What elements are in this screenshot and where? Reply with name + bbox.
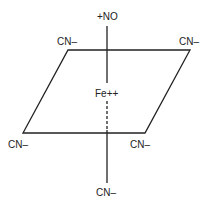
label-cyanide-top-right: CN– bbox=[179, 37, 199, 47]
label-cyanide-bottom-right: CN– bbox=[130, 140, 150, 150]
label-cyanide-bottom-left: CN– bbox=[8, 140, 28, 150]
label-iron-center: Fe++ bbox=[95, 89, 118, 99]
label-cyanide-bottom-axial: CN– bbox=[96, 188, 116, 198]
label-cyanide-top-left: CN– bbox=[57, 37, 77, 47]
diagram-canvas: +NO CN– CN– Fe++ CN– CN– CN– bbox=[0, 0, 205, 205]
structure-drawing bbox=[0, 0, 205, 205]
label-nitrosyl: +NO bbox=[97, 12, 118, 22]
